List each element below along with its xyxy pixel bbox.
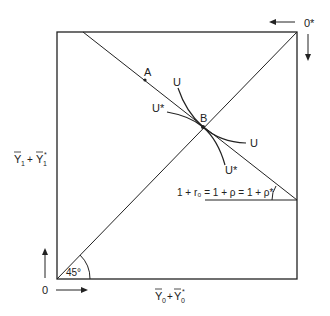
foreign-y-arrow-icon [305, 54, 311, 61]
angle-45-label: 45° [66, 267, 81, 278]
svg-text:+: + [27, 154, 33, 165]
svg-text:*: * [182, 288, 185, 295]
indifference-curve-u [178, 88, 246, 143]
curve-u-top-label: U [173, 76, 181, 88]
x-axis-label: Y 0 + Y 0 * [155, 288, 185, 304]
svg-text:*: * [44, 151, 47, 158]
svg-text:+: + [167, 291, 173, 302]
point-a-dot [143, 78, 146, 81]
point-b-label: B [200, 112, 207, 124]
y-arrow-icon [42, 248, 48, 255]
price-line-label: 1 + r₀ = 1 + ρ = 1 + ρ* [177, 187, 274, 198]
y-axis-label: Y 1 + Y 1 * [14, 151, 47, 167]
foreign-x-arrow-icon [269, 19, 276, 25]
edgeworth-box-diagram: A B U U* U U* 1 + r₀ = 1 + ρ = 1 + ρ* 45… [0, 0, 330, 316]
svg-text:0: 0 [181, 297, 185, 304]
foreign-origin-label: 0* [304, 17, 315, 29]
point-a-label: A [144, 66, 152, 78]
curve-ustar-left-label: U* [152, 102, 165, 114]
svg-text:1: 1 [43, 160, 47, 167]
diagonal-45-line [57, 32, 297, 279]
svg-text:0: 0 [162, 297, 166, 304]
origin-label: 0 [42, 284, 48, 296]
curve-u-right-label: U [250, 137, 258, 149]
diagram-svg: A B U U* U U* 1 + r₀ = 1 + ρ = 1 + ρ* 45… [0, 0, 330, 316]
curve-ustar-bottom-label: U* [225, 164, 238, 176]
angle-45-arc [80, 255, 90, 279]
x-arrow-icon [81, 287, 88, 293]
svg-text:1: 1 [21, 160, 25, 167]
price-line [83, 32, 297, 200]
